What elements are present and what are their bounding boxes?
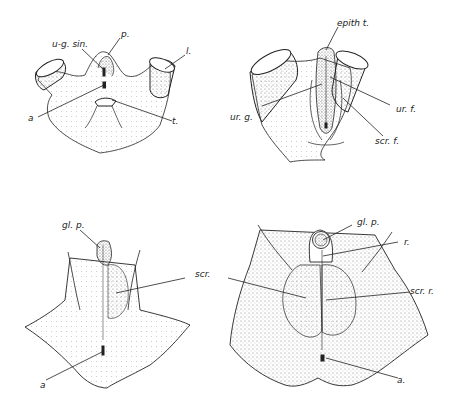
label-scrotal-raphe: scr. r. bbox=[410, 287, 434, 296]
label-anus-c: a bbox=[40, 381, 46, 390]
panel-b-drawing bbox=[248, 45, 371, 162]
label-glans-penis-c: gl. p. bbox=[62, 221, 85, 230]
label-urethral-groove: ur. g. bbox=[230, 113, 253, 122]
label-scrotal-fold: scr. f. bbox=[375, 137, 399, 146]
label-tail: t. bbox=[172, 117, 178, 126]
label-anus-d: a. bbox=[397, 376, 405, 385]
label-scrotum: scr. bbox=[195, 270, 210, 279]
anatomical-figure bbox=[0, 0, 455, 407]
label-glans-penis-d: gl. p. bbox=[357, 218, 380, 227]
panel-d-drawing bbox=[230, 225, 428, 386]
label-anus-a: a bbox=[28, 114, 34, 123]
panel-a-drawing bbox=[34, 52, 176, 153]
label-epithelial-tag: epith t. bbox=[337, 19, 369, 28]
label-phallus: p. bbox=[121, 30, 130, 39]
panel-c-drawing bbox=[25, 241, 190, 388]
label-limb: l. bbox=[186, 47, 191, 56]
label-urethral-fold: ur. f. bbox=[396, 105, 416, 114]
label-urogenital-sinus: u-g. sin. bbox=[52, 40, 88, 49]
label-raphe: r. bbox=[404, 238, 410, 247]
